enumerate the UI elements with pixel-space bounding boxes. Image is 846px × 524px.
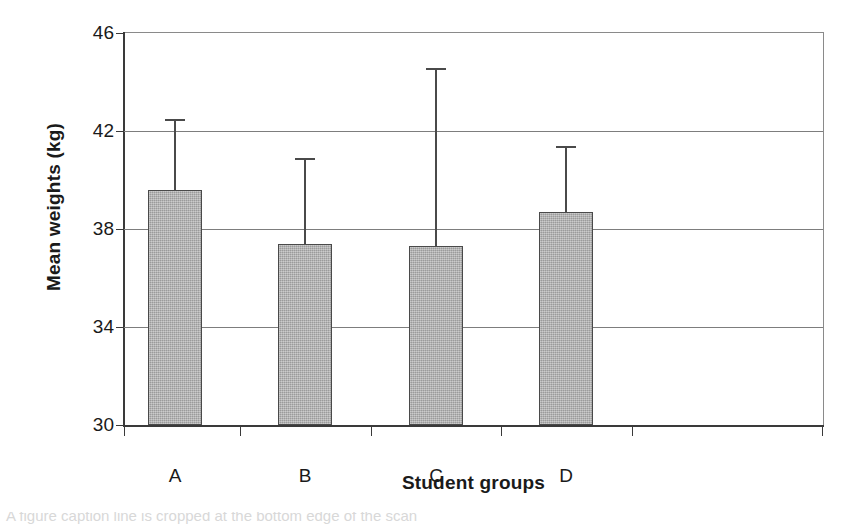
error-bar-cap-C <box>426 68 446 70</box>
bar-chart-figure: Mean weights (kg) 46 42 38 34 30 <box>0 0 846 524</box>
plot-area: A B C D <box>124 33 823 425</box>
y-tick-label-46: 46 <box>68 22 114 44</box>
error-bar-stem-A <box>174 119 176 190</box>
y-tickmark-42 <box>116 131 124 132</box>
plot-right-border <box>823 32 824 426</box>
y-tick-label-38: 38 <box>68 218 114 240</box>
bar-C[interactable] <box>409 246 463 425</box>
x-tickmark-3 <box>501 426 502 436</box>
gridline-34 <box>124 327 823 328</box>
y-tick-label-group: 46 42 38 34 30 <box>48 0 114 524</box>
x-axis-line <box>123 425 824 427</box>
x-tickmark-0 <box>124 426 125 436</box>
y-tick-label-30: 30 <box>68 414 114 436</box>
gridline-42 <box>124 131 823 132</box>
y-tick-label-34: 34 <box>68 316 114 338</box>
bar-B[interactable] <box>278 244 332 425</box>
x-tickmark-1 <box>240 426 241 436</box>
x-tickmark-4 <box>632 426 633 436</box>
error-bar-cap-B <box>295 158 315 160</box>
bar-A[interactable] <box>148 190 202 425</box>
error-bar-stem-B <box>304 158 306 244</box>
cropped-caption-sliver: A figure caption line is cropped at the … <box>0 512 846 524</box>
x-tickmark-2 <box>371 426 372 436</box>
plot-top-border <box>124 32 823 33</box>
error-bar-stem-D <box>565 146 567 212</box>
error-bar-cap-A <box>165 119 185 121</box>
y-tickmark-30 <box>116 425 124 426</box>
error-bar-cap-D <box>556 146 576 148</box>
y-tickmark-46 <box>116 33 124 34</box>
error-bar-stem-C <box>435 68 437 246</box>
y-tickmark-34 <box>116 327 124 328</box>
x-tickmark-5 <box>822 426 823 436</box>
y-tickmark-38 <box>116 229 124 230</box>
gridline-38 <box>124 229 823 230</box>
bar-D[interactable] <box>539 212 593 425</box>
y-tick-label-42: 42 <box>68 120 114 142</box>
x-axis-title: Student groups <box>124 472 823 494</box>
